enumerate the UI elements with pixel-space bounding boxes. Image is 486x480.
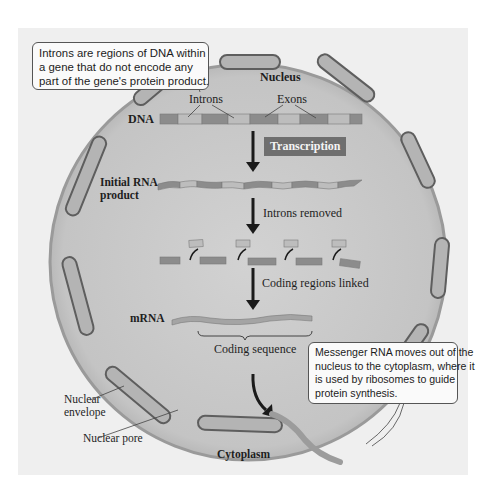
introns-removed-label: Introns removed [263, 206, 342, 221]
coding-regions-linked-label: Coding regions linked [262, 276, 369, 291]
nuclear-envelope-line1: Nuclear [64, 393, 106, 406]
coding-sequence-label: Coding sequence [214, 342, 296, 357]
nuclear-envelope-label: Nuclear envelope [64, 393, 106, 419]
callout-line: protein synthesis. [315, 387, 451, 401]
mrna-export-callout: Messenger RNA moves out of the nucleus t… [308, 342, 458, 404]
introns-definition-callout: Introns are regions of DNA within a gene… [32, 42, 209, 90]
cytoplasm-label: Cytoplasm [217, 448, 270, 460]
callout-line: part of the gene's protein product. [39, 74, 202, 88]
introns-label: Introns [189, 92, 223, 107]
nuclear-envelope-line2: envelope [64, 406, 106, 419]
callout-line: is used by ribosomes to guide [315, 373, 451, 387]
transcription-badge: Transcription [264, 137, 346, 156]
initial-rna-label: Initial RNA product [100, 176, 158, 202]
callout-line: Introns are regions of DNA within [39, 46, 202, 60]
mrna-label: mRNA [130, 312, 165, 324]
callout-line: nucleus to the cytoplasm, where it [315, 360, 451, 374]
callout-line: Messenger RNA moves out of the [315, 346, 451, 360]
dna-strand [160, 114, 362, 124]
callout-line: a gene that do not encode any [39, 60, 202, 74]
initial-rna-line2: product [100, 189, 158, 202]
nucleus-label: Nucleus [260, 70, 301, 85]
nuclear-pore-label: Nuclear pore [83, 432, 143, 444]
exons-label: Exons [277, 92, 307, 107]
initial-rna-line1: Initial RNA [100, 176, 158, 189]
dna-label: DNA [128, 112, 154, 127]
